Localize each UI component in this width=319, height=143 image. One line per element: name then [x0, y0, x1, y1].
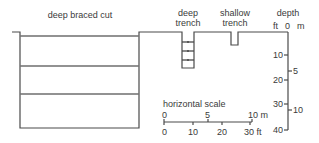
scale-ft-0: 0 [162, 127, 167, 137]
depth-zero: 0 [285, 21, 290, 31]
depth-ft-tick-40: 40 [273, 125, 283, 135]
shallow-trench-label-line1: shallow [214, 8, 256, 18]
scale-m-10: 10 m [248, 110, 268, 120]
scale-ft-30: 30 ft [244, 127, 262, 137]
depth-m-tick-5: 5 [293, 66, 298, 76]
excavation-diagram [0, 0, 319, 143]
horizontal-scale-title: horizontal scale [163, 99, 226, 109]
braced-cut-struts [20, 36, 139, 94]
depth-unit-m: m [297, 21, 305, 31]
scale-m-5: 5 [205, 110, 210, 120]
deep-braced-cut-label: deep braced cut [40, 10, 120, 20]
depth-axis [284, 32, 292, 130]
scale-ft-20: 20 [217, 127, 227, 137]
ground-surface [12, 32, 288, 128]
deep-trench-label-line1: deep [168, 8, 208, 18]
depth-unit-ft: ft [273, 21, 278, 31]
depth-ft-tick-10: 10 [273, 50, 283, 60]
depth-label: depth [270, 8, 306, 18]
scale-ft-10: 10 [188, 127, 198, 137]
depth-ft-tick-30: 30 [273, 99, 283, 109]
scale-m-0: 0 [162, 110, 167, 120]
depth-m-tick-10: 10 [293, 105, 303, 115]
depth-ft-tick-20: 20 [273, 75, 283, 85]
deep-trench-label-line2: trench [168, 18, 208, 28]
shallow-trench-label-line2: trench [214, 18, 256, 28]
